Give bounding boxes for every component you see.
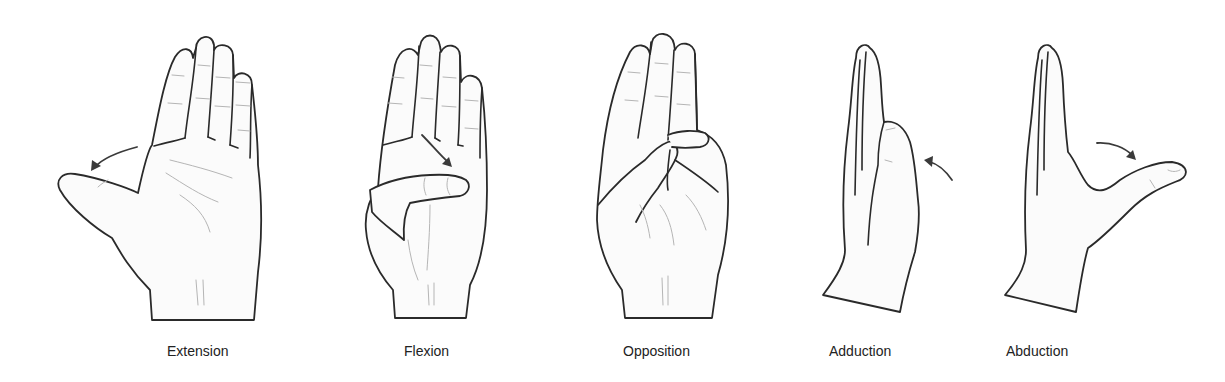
label-flexion: Flexion <box>404 343 449 359</box>
label-abduction: Abduction <box>1006 343 1068 359</box>
label-adduction: Adduction <box>829 343 891 359</box>
thumb-movements-figure: Extension Flexion Opposition Adduction A… <box>0 0 1225 382</box>
label-opposition: Opposition <box>623 343 690 359</box>
label-extension: Extension <box>167 343 228 359</box>
hand-thumb-abduction-icon <box>0 0 1225 382</box>
